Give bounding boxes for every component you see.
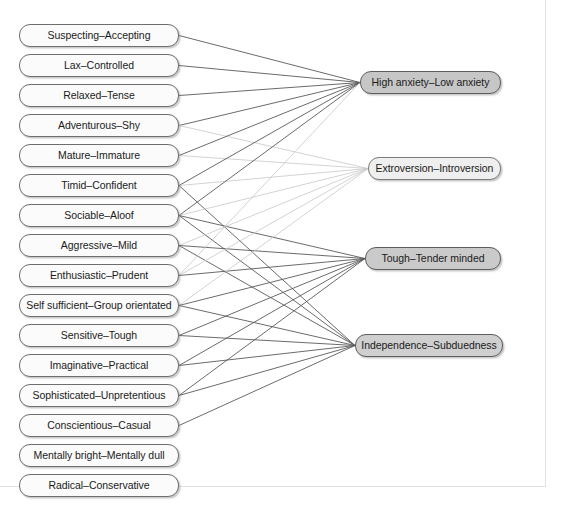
edge-L7-R1 [179,83,360,216]
primary-factor-node-3-label: Relaxed–Tense [63,90,135,102]
primary-factor-node-12[interactable]: Imaginative–Practical [19,354,179,377]
edge-L8-R2 [179,169,368,246]
primary-factor-node-2[interactable]: Lax–Controlled [19,54,179,77]
primary-factor-node-2-label: Lax–Controlled [64,60,134,72]
primary-factor-node-4[interactable]: Adventurous–Shy [19,114,179,137]
global-factor-node-1[interactable]: High anxiety–Low anxiety [360,71,501,94]
primary-factor-node-13-label: Sophisticated–Unpretentious [33,390,166,402]
primary-factor-node-13[interactable]: Sophisticated–Unpretentious [19,384,179,407]
primary-factor-node-15-label: Mentally bright–Mentally dull [33,450,164,462]
primary-factor-node-14-label: Conscientious–Casual [47,420,150,432]
edge-L7-R2 [179,169,368,216]
global-factor-node-3-label: Tough–Tender minded [382,253,485,265]
primary-factor-node-8[interactable]: Aggressive–Mild [19,234,179,257]
edge-L14-R4 [179,346,355,426]
primary-factor-node-11-label: Sensitive–Tough [61,330,137,342]
primary-factor-node-9[interactable]: Enthusiastic–Prudent [19,264,179,287]
global-factor-node-2-label: Extroversion–Introversion [376,163,494,175]
edge-L12-R4 [179,346,355,366]
primary-factor-node-9-label: Enthusiastic–Prudent [50,270,148,282]
primary-factor-node-10-label: Self sufficient–Group orientated [26,300,171,312]
diagram-figure: Suspecting–AcceptingLax–ControlledRelaxe… [0,0,566,523]
primary-factor-node-12-label: Imaginative–Practical [50,360,149,372]
primary-factor-node-6[interactable]: Timid–Confident [19,174,179,197]
primary-factor-node-8-label: Aggressive–Mild [61,240,137,252]
edge-L6-R2 [179,169,368,186]
global-factor-node-4-label: Independence–Subduedness [361,340,496,352]
primary-factor-node-14[interactable]: Conscientious–Casual [19,414,179,437]
primary-factor-node-4-label: Adventurous–Shy [58,120,140,132]
primary-factor-node-3[interactable]: Relaxed–Tense [19,84,179,107]
global-factor-node-2[interactable]: Extroversion–Introversion [368,157,501,180]
global-factor-node-1-label: High anxiety–Low anxiety [372,77,490,89]
edge-L13-R3 [179,259,365,396]
global-factor-node-3[interactable]: Tough–Tender minded [365,247,501,270]
primary-factor-node-16-label: Radical–Conservative [48,480,149,492]
edge-L6-R1 [179,83,360,186]
primary-factor-node-15[interactable]: Mentally bright–Mentally dull [19,444,179,467]
edge-L13-R4 [179,346,355,396]
edge-L2-R1 [179,66,360,83]
primary-factor-node-1-label: Suspecting–Accepting [48,30,151,42]
primary-factor-node-5-label: Mature–Immature [58,150,140,162]
edge-L1-R1 [179,36,360,83]
primary-factor-node-7[interactable]: Sociable–Aloof [19,204,179,227]
primary-factor-node-6-label: Timid–Confident [61,180,136,192]
primary-factor-node-10[interactable]: Self sufficient–Group orientated [19,294,179,317]
global-factor-node-4[interactable]: Independence–Subduedness [355,334,503,357]
primary-factor-node-11[interactable]: Sensitive–Tough [19,324,179,347]
edge-L9-R1 [179,83,360,276]
primary-factor-node-16[interactable]: Radical–Conservative [19,474,179,497]
edge-group [179,36,368,426]
primary-factor-node-5[interactable]: Mature–Immature [19,144,179,167]
primary-factor-node-7-label: Sociable–Aloof [64,210,133,222]
edge-L11-R4 [179,336,355,346]
primary-factor-node-1[interactable]: Suspecting–Accepting [19,24,179,47]
